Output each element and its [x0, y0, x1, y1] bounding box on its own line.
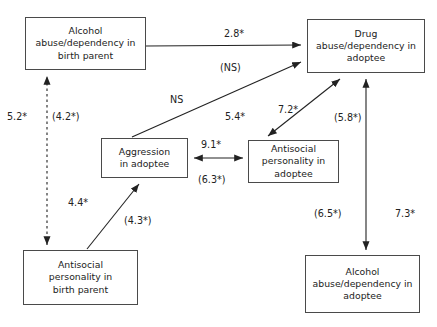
edge-label-2-8: 2.8*	[224, 28, 244, 39]
edge-label-5-4: 5.4*	[225, 111, 245, 122]
edge-label-6-3: (6.3*)	[198, 174, 226, 185]
node-alcohol-birth-parent[interactable]: Alcohol abuse/dependency in birth parent	[25, 17, 146, 70]
edge-label-4-2: (4.2*)	[52, 111, 80, 122]
edge-label-ns-parenthetical: (NS)	[220, 62, 241, 73]
edge-label-ns: NS	[170, 94, 183, 105]
edge-label-7-2: 7.2*	[278, 104, 298, 115]
edge-label-4-3: (4.3*)	[124, 215, 152, 226]
edge-aggression-to-drug-adoptee	[132, 62, 301, 137]
node-alcohol-adoptee[interactable]: Alcohol abuse/dependency in adoptee	[305, 255, 420, 313]
node-label: Antisocial personality in birth parent	[46, 259, 115, 296]
edge-label-6-5: (6.5*)	[314, 208, 342, 219]
edge-alcohol-bp-to-drug-adoptee	[146, 45, 301, 46]
edge-label-4-4: 4.4*	[68, 197, 88, 208]
node-antisocial-adoptee[interactable]: Antisocial personality in adoptee	[248, 140, 339, 183]
node-label: Alcohol abuse/dependency in birth parent	[33, 25, 139, 62]
node-label: Antisocial personality in adoptee	[259, 143, 328, 180]
edge-label-5-8: (5.8*)	[334, 112, 362, 123]
node-aggression-adoptee[interactable]: Aggression in adoptee	[101, 138, 188, 178]
path-diagram: Alcohol abuse/dependency in birth parent…	[0, 0, 437, 327]
node-drug-adoptee[interactable]: Drug abuse/dependency in adoptee	[307, 19, 425, 73]
node-label: Alcohol abuse/dependency in adoptee	[310, 266, 416, 303]
edge-label-9-1: 9.1*	[201, 139, 221, 150]
node-label: Aggression in adoptee	[116, 146, 173, 170]
node-label: Drug abuse/dependency in adoptee	[313, 28, 419, 65]
node-antisocial-birth-parent[interactable]: Antisocial personality in birth parent	[23, 250, 138, 305]
edge-label-7-3: 7.3*	[395, 208, 415, 219]
edge-label-5-2: 5.2*	[7, 111, 27, 122]
